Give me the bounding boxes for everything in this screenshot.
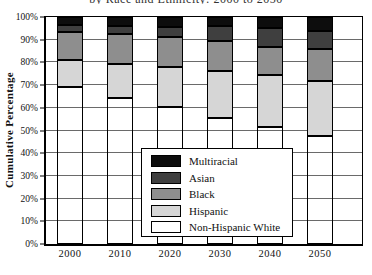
legend-label-multiracial: Multiracial — [189, 155, 238, 167]
segment-2000-multiracial — [57, 17, 83, 25]
segment-2050-multiracial — [307, 17, 333, 31]
segment-2040-multiracial — [257, 17, 283, 28]
legend-item-black: Black — [151, 186, 292, 203]
legend-box: MultiracialAsianBlackHispanicNon-Hispani… — [141, 148, 293, 237]
legend-swatch-hispanic — [151, 205, 181, 217]
segment-2010-hispanic — [107, 64, 133, 98]
segment-2030-black — [207, 41, 233, 72]
legend-label-non-hispanic-white: Non-Hispanic White — [189, 221, 280, 233]
segment-2050-hispanic — [307, 81, 333, 137]
legend-label-asian: Asian — [189, 172, 215, 184]
bar-2050 — [307, 17, 333, 244]
legend-swatch-black — [151, 188, 181, 200]
y-tick-label: 60% — [21, 103, 38, 113]
legend-swatch-non-hispanic-white — [151, 221, 181, 233]
segment-2050-asian — [307, 31, 333, 49]
legend-item-non-hispanic-white: Non-Hispanic White — [151, 219, 292, 236]
bar-2000 — [57, 17, 83, 244]
segment-2020-asian — [157, 27, 183, 37]
y-tick-label: 40% — [21, 148, 38, 158]
y-tick-label: 70% — [21, 80, 38, 90]
x-label-2030: 2030 — [209, 248, 232, 259]
bar-2010 — [107, 17, 133, 244]
x-label-2050: 2050 — [309, 248, 332, 259]
y-tick-label: 90% — [21, 35, 38, 45]
segment-2020-multiracial — [157, 17, 183, 27]
x-label-2000: 2000 — [59, 248, 82, 259]
legend-item-hispanic: Hispanic — [151, 203, 292, 220]
segment-2030-hispanic — [207, 71, 233, 118]
clipped-chart-title: by Race and Ethnicity: 2000 to 2050 — [0, 0, 372, 4]
legend-item-asian: Asian — [151, 170, 292, 187]
legend-swatch-multiracial — [151, 155, 181, 167]
segment-2010-non-hispanic-white — [107, 98, 133, 244]
legend-label-black: Black — [189, 188, 215, 200]
segment-2010-multiracial — [107, 17, 133, 26]
x-label-2040: 2040 — [259, 248, 282, 259]
y-axis: 0%10%20%30%40%50%60%70%80%90%100% — [0, 17, 44, 244]
segment-2040-hispanic — [257, 75, 283, 127]
y-tick-label: 50% — [21, 126, 38, 136]
segment-2000-hispanic — [57, 60, 83, 87]
x-label-2020: 2020 — [159, 248, 182, 259]
x-label-2010: 2010 — [109, 248, 132, 259]
segment-2020-black — [157, 37, 183, 67]
legend-item-multiracial: Multiracial — [151, 153, 292, 170]
clipped-chart-title-text: by Race and Ethnicity: 2000 to 2050 — [89, 0, 282, 4]
segment-2000-black — [57, 32, 83, 60]
segment-2050-black — [307, 49, 333, 81]
y-tick-label: 80% — [21, 57, 38, 67]
segment-2030-asian — [207, 26, 233, 41]
segment-2030-multiracial — [207, 17, 233, 26]
legend-label-hispanic: Hispanic — [189, 205, 228, 217]
legend-swatch-asian — [151, 172, 181, 184]
segment-2000-asian — [57, 25, 83, 32]
segment-2000-non-hispanic-white — [57, 87, 83, 244]
segment-2050-non-hispanic-white — [307, 136, 333, 244]
segment-2010-black — [107, 34, 133, 64]
segment-2010-asian — [107, 26, 133, 34]
y-tick-label: 30% — [21, 171, 38, 181]
segment-2040-black — [257, 47, 283, 75]
segment-2040-asian — [257, 28, 283, 46]
x-axis-labels: 200020102020203020402050 — [0, 248, 372, 262]
y-tick-label: 10% — [21, 216, 38, 226]
y-tick-label: 100% — [16, 12, 38, 22]
y-tick-label: 20% — [21, 194, 38, 204]
segment-2020-hispanic — [157, 67, 183, 107]
